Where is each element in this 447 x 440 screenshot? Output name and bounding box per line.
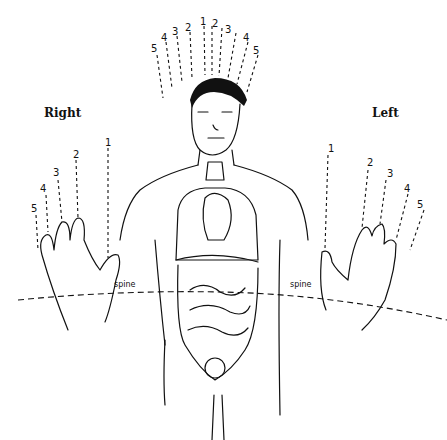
right-hand (36, 148, 120, 330)
abdomen (178, 265, 258, 380)
head-number: 3 (225, 25, 231, 35)
heart (203, 193, 231, 240)
head-number: 4 (243, 33, 249, 43)
left-finger-number: 5 (417, 200, 423, 210)
right-finger-number: 3 (53, 168, 59, 178)
spine-level-dashed-line (18, 292, 447, 320)
left-side-label: Left (372, 106, 399, 120)
spine-label-right: spine (114, 280, 135, 289)
left-hand (321, 155, 424, 330)
head (190, 78, 247, 165)
trachea (206, 162, 224, 180)
head-number: 2 (212, 19, 218, 29)
body-illustration (0, 0, 447, 440)
left-finger-number: 3 (387, 169, 393, 179)
right-side-label: Right (44, 106, 81, 120)
left-finger-number: 1 (328, 144, 334, 154)
right-finger-number: 1 (105, 138, 111, 148)
diaphragm (176, 255, 258, 262)
lungs-cavity (176, 188, 258, 260)
right-finger-number: 5 (31, 204, 37, 214)
spine-label-left: spine (290, 280, 311, 289)
organs (176, 162, 258, 440)
lower-line (212, 395, 224, 440)
head-number: 3 (172, 27, 178, 37)
right-finger-number: 2 (73, 150, 79, 160)
head-number: 5 (151, 44, 157, 54)
head-number: 5 (253, 46, 259, 56)
head-number: 2 (185, 23, 191, 33)
left-finger-number: 4 (404, 184, 410, 194)
head-number: 1 (200, 17, 206, 27)
head-number: 4 (161, 33, 167, 43)
left-finger-number: 2 (367, 158, 373, 168)
bladder (205, 358, 225, 378)
right-finger-number: 4 (40, 184, 46, 194)
reflexology-diagram: Right Left spine spine 5 4 3 2 1 2 3 4 5… (0, 0, 447, 440)
